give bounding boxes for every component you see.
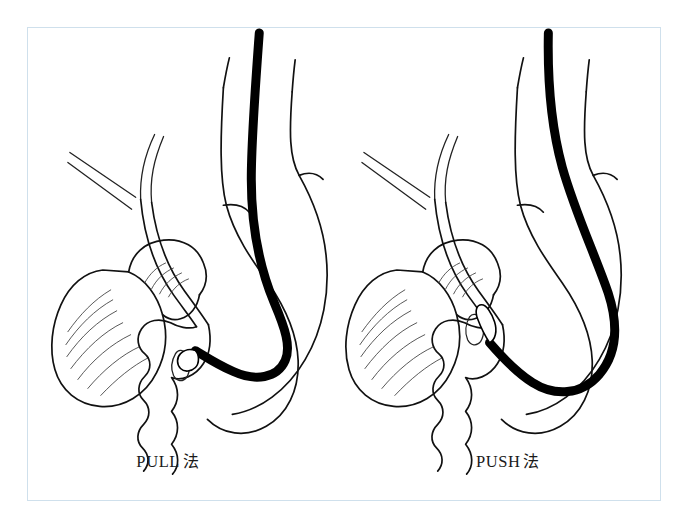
caption-push: PUSH法: [350, 448, 666, 472]
caption-push-latin: PUSH: [476, 452, 521, 471]
common-bile-duct-icon: [435, 199, 503, 326]
stomach-icon: [502, 88, 622, 434]
caption-pull: PULL法: [10, 448, 326, 472]
caption-pull-cjk: 法: [180, 452, 200, 471]
stomach-icon: [207, 88, 327, 434]
figure-root: PULL法: [0, 0, 683, 528]
pull-diagram: [28, 28, 344, 500]
hepatic-ducts-icon: [68, 135, 164, 210]
panel-pull: PULL法: [28, 28, 344, 500]
figure-frame: PULL法: [27, 27, 661, 501]
endoscope-push-icon: [476, 33, 614, 392]
common-bile-duct-icon: [141, 199, 209, 326]
gallbladder-icon: [346, 270, 460, 407]
caption-push-cjk: 法: [520, 452, 540, 471]
hepatic-ducts-icon: [362, 135, 458, 210]
gallbladder-icon: [52, 270, 166, 407]
caption-pull-latin: PULL: [136, 452, 180, 471]
panel-push: PUSH法: [344, 28, 660, 500]
push-diagram: [344, 28, 660, 500]
